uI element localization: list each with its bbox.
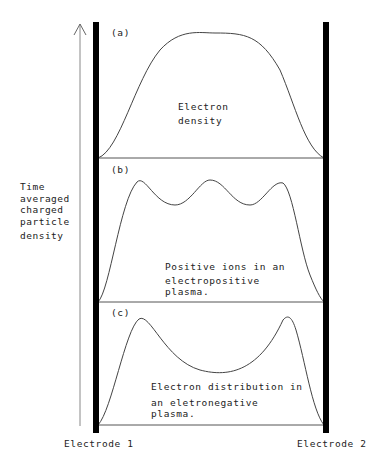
panel-c-label-line3: plasma. [151, 407, 195, 420]
curve-a-electron-density [98, 33, 324, 158]
panel-b-tag: (b) [111, 163, 130, 176]
panel-a-tag: (a) [111, 26, 130, 39]
y-axis-label: Time averaged charged particle density [20, 181, 70, 242]
panel-b-label-line3: plasma. [165, 285, 209, 298]
panel-a-label-line1: Electron [178, 100, 229, 113]
y-label-line: averaged [20, 193, 70, 205]
y-label-line: charged [20, 204, 70, 216]
y-label-line: Time [20, 181, 70, 193]
electrode-1-label: Electrode 1 [64, 437, 134, 450]
electrode-2-label: Electrode 2 [297, 437, 367, 450]
panel-c-tag: (c) [111, 306, 130, 319]
electrode-1-plate [93, 22, 99, 433]
panel-a-label-line2: density [178, 114, 222, 127]
panel-c-label-line1: Electron distribution in [151, 380, 303, 393]
y-label-line: particle [20, 216, 70, 228]
y-label-line: density [20, 230, 70, 242]
electrode-2-plate [323, 22, 329, 433]
panel-b-label-line1: Positive ions in an [165, 260, 285, 273]
y-axis-arrow [74, 24, 86, 426]
